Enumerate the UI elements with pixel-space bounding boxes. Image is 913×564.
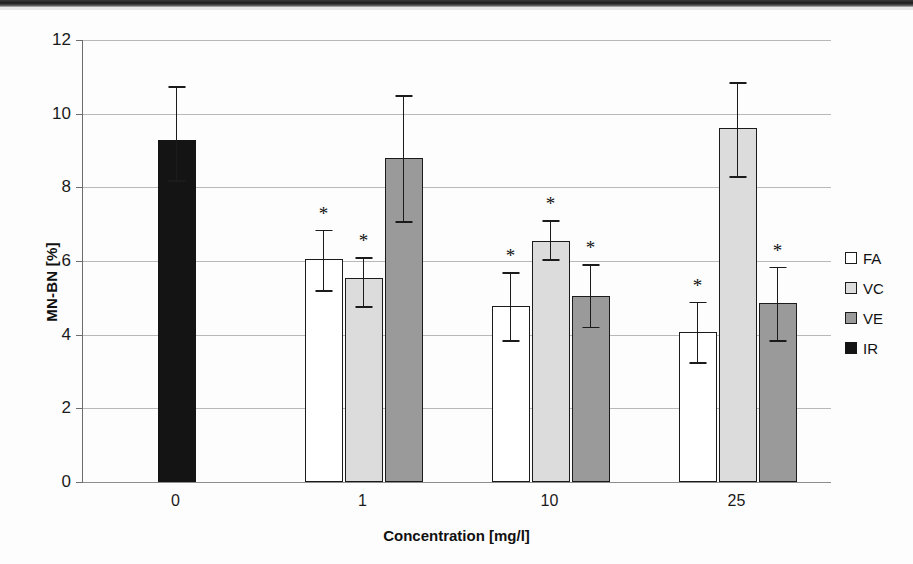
y-axis-tick-label: 12 <box>52 30 71 50</box>
significance-marker-fa-1: * <box>319 204 329 223</box>
y-axis-tick-label: 6 <box>62 251 71 271</box>
gridline <box>83 40 831 41</box>
legend-item-label: VE <box>863 310 883 327</box>
legend-swatch-icon <box>845 312 857 324</box>
significance-marker-vc-1: * <box>359 231 369 250</box>
error-bar-vc-25 <box>737 82 739 176</box>
error-cap-bottom <box>168 180 185 182</box>
error-cap-top <box>502 272 519 274</box>
y-axis-tick <box>76 335 83 336</box>
x-axis-category-label: 25 <box>728 492 746 510</box>
x-axis-title: Concentration [mg/l] <box>0 527 913 544</box>
y-axis-tick <box>76 114 83 115</box>
legend-swatch-icon <box>845 252 857 264</box>
significance-marker-vc-10: * <box>546 194 556 213</box>
bar-fa-1 <box>305 259 343 482</box>
error-cap-top <box>395 95 412 97</box>
y-axis-tick-label: 4 <box>62 325 71 345</box>
chart-legend: FAVCVEIR <box>845 243 907 363</box>
error-bar-ir-0 <box>176 86 178 180</box>
y-axis-tick-label: 10 <box>52 104 71 124</box>
error-cap-bottom <box>395 221 412 223</box>
error-bar-fa-10 <box>510 272 512 340</box>
error-cap-bottom <box>355 306 372 308</box>
error-bar-ve-10 <box>590 264 592 327</box>
chart-figure: MN-BN [%] 024681012 ******* 011025 Conce… <box>0 0 913 564</box>
error-bar-fa-1 <box>323 230 325 291</box>
y-axis-title: MN-BN [%] <box>43 242 60 321</box>
error-cap-bottom <box>769 340 786 342</box>
y-axis-tick <box>76 187 83 188</box>
plot-area: 024681012 ******* <box>82 40 831 483</box>
x-axis-category-label: 10 <box>541 492 559 510</box>
bar-vc-25 <box>719 128 757 482</box>
x-axis-category-label: 0 <box>171 492 180 510</box>
error-cap-bottom <box>502 340 519 342</box>
scan-artifact-band-light <box>0 7 913 10</box>
error-cap-top <box>582 264 599 266</box>
error-bar-vc-10 <box>550 220 552 259</box>
error-cap-bottom <box>582 327 599 329</box>
error-cap-top <box>355 257 372 259</box>
scan-artifact-band <box>0 0 913 7</box>
significance-marker-ve-10: * <box>586 238 596 257</box>
bar-vc-1 <box>345 278 383 482</box>
error-cap-top <box>689 302 706 304</box>
y-axis-tick-label: 0 <box>62 472 71 492</box>
y-axis-tick-label: 2 <box>62 398 71 418</box>
gridline <box>83 114 831 115</box>
legend-item-label: FA <box>863 250 881 267</box>
legend-item-label: VC <box>863 280 884 297</box>
error-cap-top <box>315 230 332 232</box>
error-cap-top <box>729 82 746 84</box>
x-axis-category-label: 1 <box>358 492 367 510</box>
error-bar-ve-25 <box>777 267 779 341</box>
y-axis-tick <box>76 408 83 409</box>
significance-marker-fa-25: * <box>693 276 703 295</box>
significance-marker-ve-25: * <box>773 241 783 260</box>
error-cap-top <box>542 220 559 222</box>
error-cap-top <box>168 86 185 88</box>
legend-item-fa[interactable]: FA <box>845 243 907 273</box>
legend-swatch-icon <box>845 342 857 354</box>
error-cap-bottom <box>542 259 559 261</box>
error-bar-ve-1 <box>403 95 405 221</box>
error-cap-bottom <box>315 290 332 292</box>
error-cap-bottom <box>689 362 706 364</box>
bar-ir-0 <box>158 140 196 482</box>
legend-item-label: IR <box>863 340 878 357</box>
legend-item-vc[interactable]: VC <box>845 273 907 303</box>
legend-swatch-icon <box>845 282 857 294</box>
y-axis-tick <box>76 482 83 483</box>
legend-item-ve[interactable]: VE <box>845 303 907 333</box>
gridline <box>83 482 831 483</box>
error-bar-fa-25 <box>697 302 699 363</box>
error-cap-top <box>769 267 786 269</box>
error-bar-vc-1 <box>363 257 365 306</box>
y-axis-tick <box>76 261 83 262</box>
bar-vc-10 <box>532 241 570 482</box>
y-axis-tick <box>76 40 83 41</box>
legend-item-ir[interactable]: IR <box>845 333 907 363</box>
significance-marker-fa-10: * <box>506 246 516 265</box>
error-cap-bottom <box>729 176 746 178</box>
y-axis-tick-label: 8 <box>62 177 71 197</box>
